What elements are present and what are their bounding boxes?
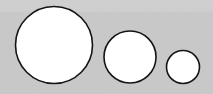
- large-circle: [16, 7, 93, 84]
- medium-circle: [104, 31, 156, 83]
- small-circle: [167, 51, 200, 84]
- circles-figure: [0, 0, 213, 94]
- figure-container: [0, 0, 213, 94]
